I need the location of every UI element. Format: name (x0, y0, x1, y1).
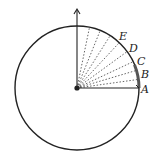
circle-diagram: A B C D E (0, 0, 159, 163)
label-d: D (128, 42, 138, 55)
label-c: C (137, 55, 146, 68)
diagram: A B C D E (0, 0, 159, 163)
label-a: A (140, 83, 149, 96)
label-b: B (140, 68, 149, 81)
highlight-arc (135, 65, 140, 88)
center-point (74, 85, 79, 90)
dotted-radii (77, 27, 138, 88)
label-e: E (118, 30, 127, 43)
